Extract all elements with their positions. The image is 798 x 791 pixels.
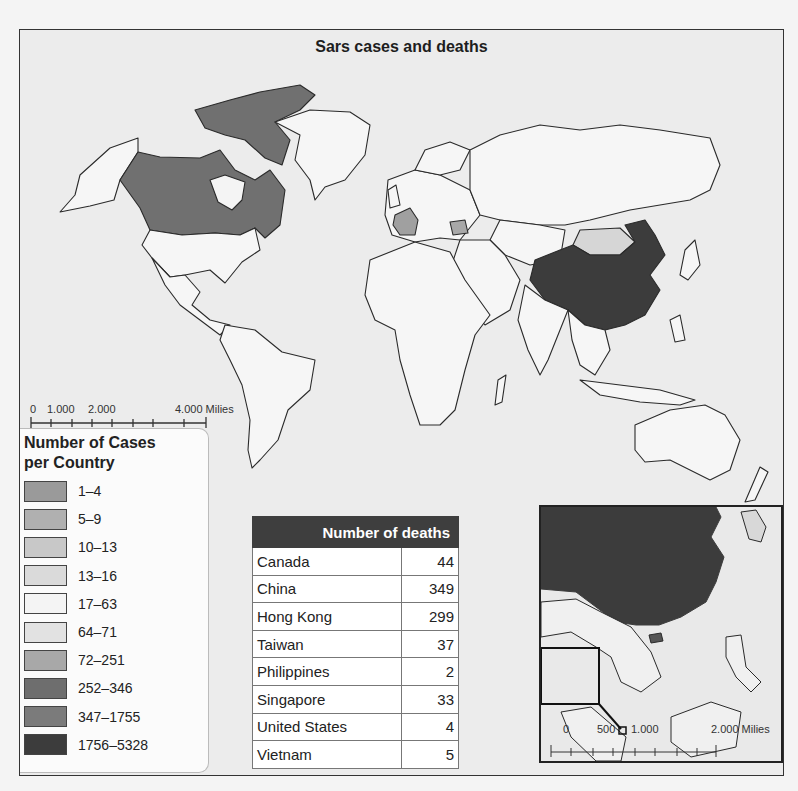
- legend-item: 17–63: [24, 590, 208, 618]
- deaths-cell: 37: [402, 630, 459, 658]
- country-new-zealand: [745, 467, 768, 502]
- table-row: Hong Kong299: [253, 603, 459, 631]
- table-row: China349: [253, 575, 459, 603]
- legend-title: Number of Cases per Country: [24, 433, 208, 473]
- map-title: Sars cases and deaths: [20, 38, 783, 56]
- country-cell: Singapore: [253, 685, 402, 713]
- legend-item: 252–346: [24, 674, 208, 702]
- legend-item: 72–251: [24, 646, 208, 674]
- country-cell: Canada: [253, 548, 402, 576]
- country-madagascar: [495, 375, 506, 405]
- legend-label: 5–9: [78, 511, 101, 527]
- legend-swatch: [24, 481, 67, 502]
- inset-scale-label-0: 0: [563, 723, 569, 735]
- inset-scale-label-1000: 1.000: [631, 723, 659, 735]
- region-scandinavia: [415, 142, 470, 175]
- map-frame: Sars cases and deaths 0 1.000 2.000 4.00…: [19, 29, 784, 776]
- country-philippines: [670, 315, 685, 342]
- table-row: Vietnam5: [253, 741, 459, 769]
- country-japan: [680, 240, 700, 280]
- legend-label: 13–16: [78, 568, 117, 584]
- legend-swatch: [24, 622, 67, 643]
- legend-swatch: [24, 734, 67, 755]
- legend-item: 347–1755: [24, 703, 208, 731]
- legend-label: 17–63: [78, 596, 117, 612]
- legend-item: 5–9: [24, 505, 208, 533]
- legend-item: 10–13: [24, 533, 208, 561]
- inset-korea: [741, 510, 766, 542]
- legend-label: 64–71: [78, 624, 117, 640]
- legend-label: 347–1755: [78, 709, 140, 725]
- table-row: United States4: [253, 713, 459, 741]
- legend-swatch: [24, 650, 67, 671]
- inset-philippines: [726, 635, 761, 692]
- table-row: Philippines2: [253, 658, 459, 686]
- legend-label: 1–4: [78, 483, 101, 499]
- inset-hainan: [649, 633, 663, 643]
- inset-locator-box: [541, 648, 599, 704]
- country-romania: [450, 220, 468, 235]
- table-row: Canada44: [253, 548, 459, 576]
- legend-swatch: [24, 678, 67, 699]
- country-cell: China: [253, 575, 402, 603]
- country-greenland: [275, 110, 370, 200]
- legend-label: 72–251: [78, 652, 125, 668]
- country-cell: Philippines: [253, 658, 402, 686]
- country-cell: Taiwan: [253, 630, 402, 658]
- country-russia: [470, 125, 720, 225]
- legend-label: 252–346: [78, 680, 133, 696]
- legend-title-line2: per Country: [24, 454, 115, 471]
- legend-label: 1756–5328: [78, 737, 148, 753]
- legend-item: 1–4: [24, 477, 208, 505]
- legend-title-line1: Number of Cases: [24, 434, 156, 451]
- deaths-cell: 299: [402, 603, 459, 631]
- legend-swatch: [24, 537, 67, 558]
- inset-scale-label-2000: 2.000 Milies: [711, 723, 770, 735]
- deaths-cell: 4: [402, 713, 459, 741]
- legend-swatch: [24, 509, 67, 530]
- legend-swatch: [24, 706, 67, 727]
- continent-south-america: [220, 325, 315, 468]
- legend-item: 13–16: [24, 562, 208, 590]
- deaths-table-header: Number of deaths: [253, 517, 459, 548]
- country-cell: Hong Kong: [253, 603, 402, 631]
- country-cell: Vietnam: [253, 741, 402, 769]
- country-canada: [120, 150, 285, 238]
- country-cell: United States: [253, 713, 402, 741]
- legend-swatch: [24, 565, 67, 586]
- legend-swatch: [24, 593, 67, 614]
- country-indonesia: [580, 380, 695, 405]
- deaths-cell: 2: [402, 658, 459, 686]
- legend-label: 10–13: [78, 539, 117, 555]
- deaths-cell: 5: [402, 741, 459, 769]
- deaths-cell: 33: [402, 685, 459, 713]
- southeast-asia-inset-map: 0 500 1.000 2.000 Milies: [539, 505, 783, 763]
- legend-item: 64–71: [24, 618, 208, 646]
- inset-scale-label-500: 500: [597, 723, 615, 735]
- legend-item: 1756–5328: [24, 731, 208, 759]
- deaths-cell: 44: [402, 548, 459, 576]
- country-australia: [635, 405, 740, 480]
- deaths-cell: 349: [402, 575, 459, 603]
- table-row: Singapore33: [253, 685, 459, 713]
- deaths-table: Number of deaths Canada44 China349 Hong …: [252, 516, 459, 769]
- cases-legend: Number of Cases per Country 1–4 5–9 10–1…: [20, 428, 209, 773]
- table-row: Taiwan37: [253, 630, 459, 658]
